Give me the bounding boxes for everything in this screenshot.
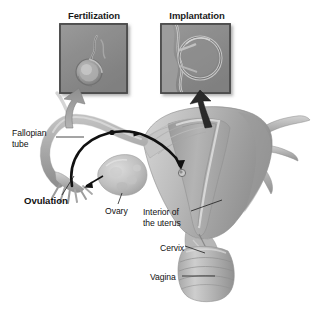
fertilization-inset-image <box>60 24 127 93</box>
label-interior-of-the-uterus: Interior of the uterus <box>143 207 181 228</box>
label-cervix: Cervix <box>160 243 184 254</box>
reproductive-system-figure: Fertilization Implantation Fallopian tub… <box>0 0 314 310</box>
implantation-inset-image <box>161 24 230 93</box>
anatomical-illustration <box>0 0 314 310</box>
label-ovary: Ovary <box>105 206 128 217</box>
fertilization-point <box>109 130 114 135</box>
vagina <box>178 246 234 301</box>
label-vagina: Vagina <box>150 272 176 283</box>
fertilization-inset-title: Fertilization <box>60 10 128 21</box>
label-fallopian-tube: Fallopian tube <box>12 128 46 149</box>
label-interior-line1: Interior of <box>143 207 181 218</box>
label-fallopian-tube-line1: Fallopian <box>12 128 46 139</box>
label-interior-line2: the uterus <box>143 218 181 229</box>
uterus-organ-group <box>45 93 310 302</box>
implantation-inset-title: Implantation <box>161 10 233 21</box>
ovary <box>98 155 147 196</box>
label-fallopian-tube-line2: tube <box>12 139 46 150</box>
label-ovulation: Ovulation <box>24 196 68 207</box>
